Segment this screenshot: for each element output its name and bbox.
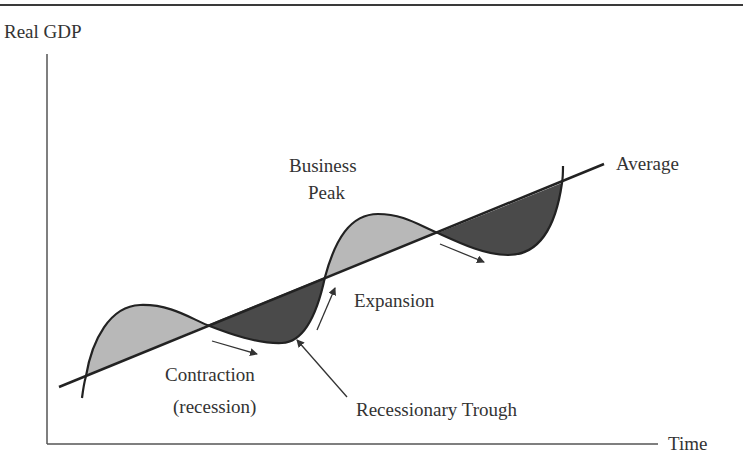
below-trend-region-2: [438, 183, 562, 255]
trough-arrow: [297, 340, 347, 397]
x-axis-label: Time: [668, 433, 707, 454]
contraction-label-line2: (recession): [173, 396, 256, 418]
trough-label: Recessionary Trough: [356, 399, 517, 420]
peak-label-line2: Peak: [308, 182, 345, 203]
contraction-label-line1: Contraction: [165, 364, 255, 385]
above-trend-region-2: [325, 214, 438, 277]
expansion-label: Expansion: [354, 290, 435, 311]
average-label: Average: [616, 153, 679, 174]
below-trend-region-1: [207, 277, 325, 343]
contraction-arrow: [212, 341, 257, 354]
business-cycle-diagram: Real GDP Time Average Business Peak Expa…: [0, 0, 743, 471]
peak-label-line1: Business: [289, 155, 357, 176]
y-axis-label: Real GDP: [4, 21, 82, 42]
